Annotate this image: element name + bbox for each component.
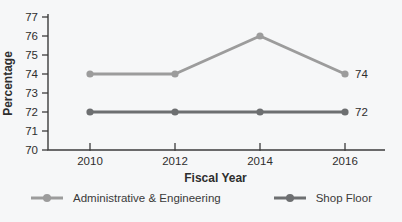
x-tick-label: 2010 [77,155,103,167]
x-axis-title: Fiscal Year [184,171,247,185]
data-point-marker [86,70,93,77]
data-point-marker [256,32,263,39]
legend-label: Administrative & Engineering [73,192,221,204]
y-tick-label: 77 [25,11,38,23]
series-end-value-label: 72 [355,106,368,118]
data-point-marker [86,108,93,115]
legend-label: Shop Floor [316,192,372,204]
x-tick-label: 2014 [247,155,273,167]
data-point-marker [341,108,348,115]
y-tick-label: 71 [25,125,38,137]
y-tick-label: 70 [25,144,38,156]
chart-legend: Administrative & Engineering Shop Floor [0,192,402,204]
y-tick-label: 72 [25,106,38,118]
y-axis-title: Percentage [1,51,15,116]
y-tick-label: 73 [25,87,38,99]
series-line-0 [90,36,345,74]
legend-item-administrative-engineering: Administrative & Engineering [30,192,221,204]
data-point-marker [171,70,178,77]
series-end-value-label: 74 [355,68,368,80]
legend-line-marker-icon [30,193,64,203]
y-tick-label: 76 [25,30,38,42]
data-point-marker [256,108,263,115]
line-chart-plot-area: 70717273747576772010201220142016Fiscal Y… [0,0,402,192]
x-tick-label: 2016 [332,155,358,167]
legend-item-shop-floor: Shop Floor [273,192,372,204]
data-point-marker [341,70,348,77]
x-tick-label: 2012 [162,155,188,167]
line-chart-figure: 70717273747576772010201220142016Fiscal Y… [0,0,402,222]
data-point-marker [171,108,178,115]
axis-spines [48,14,385,150]
y-tick-label: 75 [25,49,38,61]
y-tick-label: 74 [25,68,38,80]
legend-line-marker-icon [273,193,307,203]
